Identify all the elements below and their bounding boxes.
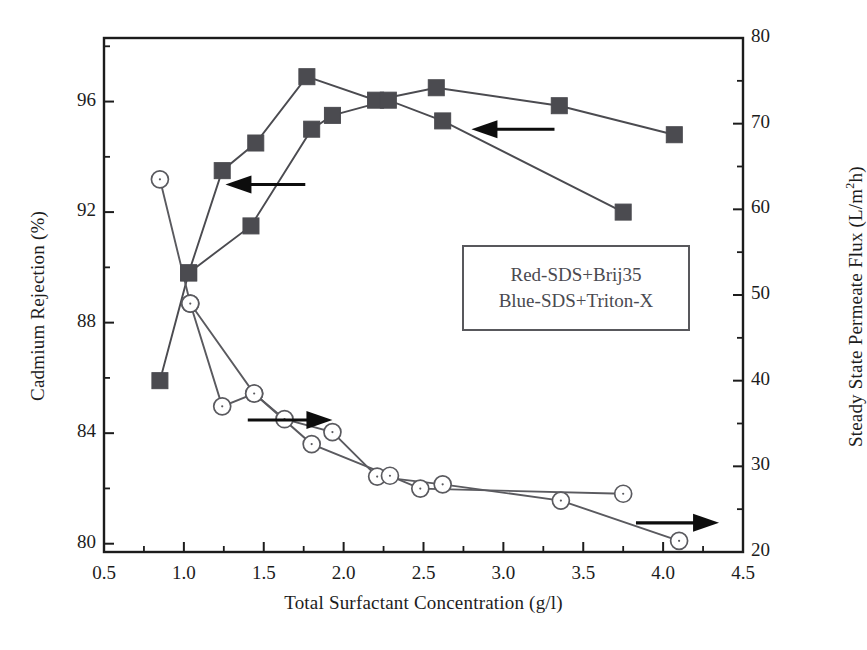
y-axis-left-tick-label-0: 80 xyxy=(50,531,96,553)
data-point-square-1-5 xyxy=(435,113,451,129)
data-point-circle-center-2-6 xyxy=(376,476,378,478)
y-axis-right-tick-label-0: 20 xyxy=(751,539,797,561)
data-point-square-0-8 xyxy=(666,127,682,143)
x-axis-tick-label-1: 1.0 xyxy=(154,562,214,584)
data-point-square-1-3 xyxy=(324,107,340,123)
y-axis-right-tick-label-2: 40 xyxy=(751,368,797,390)
y-axis-left-tick-label-2: 88 xyxy=(50,310,96,332)
series-line-1 xyxy=(189,100,624,273)
data-point-square-0-3 xyxy=(248,135,264,151)
data-point-circle-center-2-2 xyxy=(221,405,223,407)
y-axis-right-tick-label-6: 80 xyxy=(751,25,797,47)
x-axis-tick-label-8: 4.5 xyxy=(713,562,773,584)
arrow-rejection-lower-head xyxy=(471,120,497,138)
data-point-circle-center-2-8 xyxy=(560,500,562,502)
y-axis-right-tick-label-3: 50 xyxy=(751,282,797,304)
x-axis-tick-label-7: 4.0 xyxy=(633,562,693,584)
data-point-square-1-4 xyxy=(380,92,396,108)
data-point-square-0-6 xyxy=(428,80,444,96)
data-point-square-0-4 xyxy=(299,69,315,85)
y-axis-right-tick-label-5: 70 xyxy=(751,111,797,133)
data-point-square-1-0 xyxy=(181,265,197,281)
y-axis-left-tick-label-3: 92 xyxy=(50,199,96,221)
data-point-square-0-0 xyxy=(152,373,168,389)
data-point-circle-center-2-9 xyxy=(678,540,680,542)
data-point-square-0-7 xyxy=(551,98,567,114)
axis-frame xyxy=(104,38,743,552)
arrow-flux-right-head xyxy=(693,514,719,532)
x-axis-tick-label-5: 3.0 xyxy=(473,562,533,584)
data-point-square-1-1 xyxy=(243,218,259,234)
data-point-circle-center-3-4 xyxy=(419,488,421,490)
data-point-circle-center-3-5 xyxy=(622,493,624,495)
x-axis-tick-label-3: 2.0 xyxy=(314,562,374,584)
x-axis-tick-label-6: 3.5 xyxy=(553,562,613,584)
data-point-square-0-2 xyxy=(214,163,230,179)
data-point-circle-center-2-5 xyxy=(331,431,333,433)
y-axis-left-tick-label-1: 84 xyxy=(50,420,96,442)
data-point-circle-center-2-7 xyxy=(442,483,444,485)
data-point-square-1-2 xyxy=(304,121,320,137)
x-axis-tick-label-0: 0.5 xyxy=(74,562,134,584)
x-axis-tick-label-2: 1.5 xyxy=(234,562,294,584)
y-axis-right-tick-label-4: 60 xyxy=(751,196,797,218)
data-point-circle-center-3-2 xyxy=(311,443,313,445)
series-line-0 xyxy=(160,77,674,381)
y-axis-right-tick-label-1: 30 xyxy=(751,453,797,475)
data-point-circle-center-3-3 xyxy=(389,475,391,477)
data-point-square-1-6 xyxy=(615,204,631,220)
x-axis-tick-label-4: 2.5 xyxy=(394,562,454,584)
y-axis-left-tick-label-4: 96 xyxy=(50,89,96,111)
data-point-circle-center-3-1 xyxy=(253,392,255,394)
data-point-circle-center-3-0 xyxy=(189,302,191,304)
data-point-circle-center-2-0 xyxy=(159,178,161,180)
